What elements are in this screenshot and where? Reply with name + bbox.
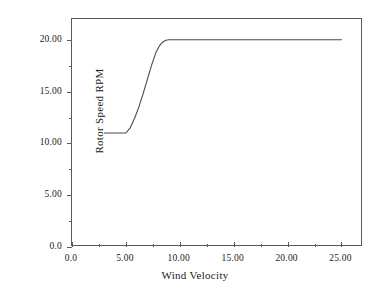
xtick-minor — [261, 244, 262, 247]
xtick-major — [72, 242, 73, 247]
chart-figure: 0.05.0010.0015.0020.000.05.0010.0015.002… — [0, 0, 390, 295]
ytick-major — [67, 40, 72, 41]
xtick-label: 20.00 — [275, 253, 297, 263]
ytick-major — [67, 195, 72, 196]
xtick-label: 0.0 — [65, 253, 77, 263]
ytick-major — [67, 143, 72, 144]
ytick-major — [67, 92, 72, 93]
xtick-label: 10.00 — [168, 253, 190, 263]
ytick-minor — [69, 169, 72, 170]
xaxis-title: Wind Velocity — [0, 269, 390, 281]
series-polyline — [104, 40, 341, 133]
xtick-major — [180, 242, 181, 247]
xtick-major — [234, 242, 235, 247]
ytick-major — [67, 247, 72, 248]
xtick-label: 5.00 — [116, 253, 133, 263]
xtick-minor — [153, 244, 154, 247]
ytick-minor — [69, 66, 72, 67]
ytick-minor — [69, 118, 72, 119]
xtick-minor — [315, 244, 316, 247]
xtick-minor — [207, 244, 208, 247]
xtick-minor — [99, 244, 100, 247]
ytick-minor — [69, 221, 72, 222]
xtick-label: 25.00 — [329, 253, 351, 263]
ytick-label: 10.00 — [0, 137, 62, 147]
plot-area — [71, 18, 362, 246]
xtick-major — [126, 242, 127, 247]
ytick-label: 5.00 — [0, 189, 62, 199]
xtick-label: 15.00 — [222, 253, 244, 263]
rotor-speed-line-series — [72, 19, 363, 247]
ytick-label: 20.00 — [0, 34, 62, 44]
ytick-label: 15.00 — [0, 86, 62, 96]
ytick-label: 0.0 — [0, 241, 62, 251]
xtick-major — [341, 242, 342, 247]
xtick-major — [288, 242, 289, 247]
